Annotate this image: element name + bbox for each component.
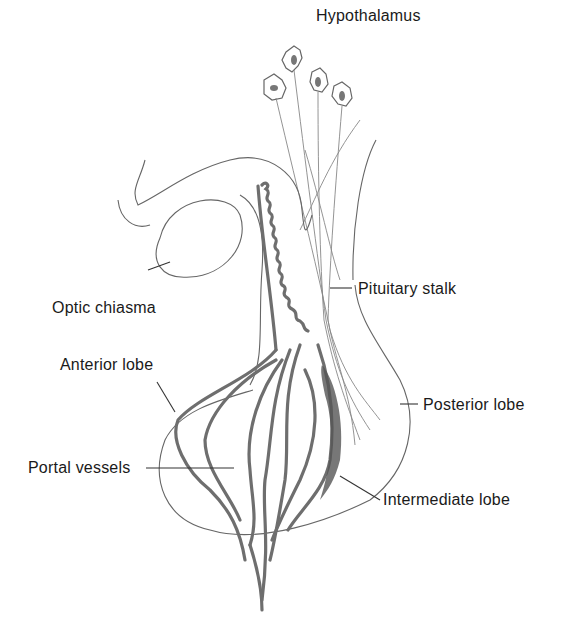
label-intermediate-lobe: Intermediate lobe	[383, 492, 510, 508]
portal-vessels	[176, 183, 332, 610]
label-posterior-lobe: Posterior lobe	[423, 397, 525, 413]
brain-outline	[118, 140, 410, 535]
optic-chiasma-leader	[148, 262, 170, 270]
pituitary-diagram: Hypothalamus Optic chiasma Pituitary sta…	[0, 0, 573, 624]
label-anterior-lobe: Anterior lobe	[60, 357, 153, 373]
leader-lines	[146, 288, 418, 500]
hypothalamus-neurons	[264, 46, 352, 106]
label-hypothalamus: Hypothalamus	[316, 8, 421, 24]
label-pituitary-stalk: Pituitary stalk	[358, 281, 456, 297]
label-portal-vessels: Portal vessels	[28, 460, 130, 476]
label-optic-chiasma: Optic chiasma	[52, 300, 156, 316]
